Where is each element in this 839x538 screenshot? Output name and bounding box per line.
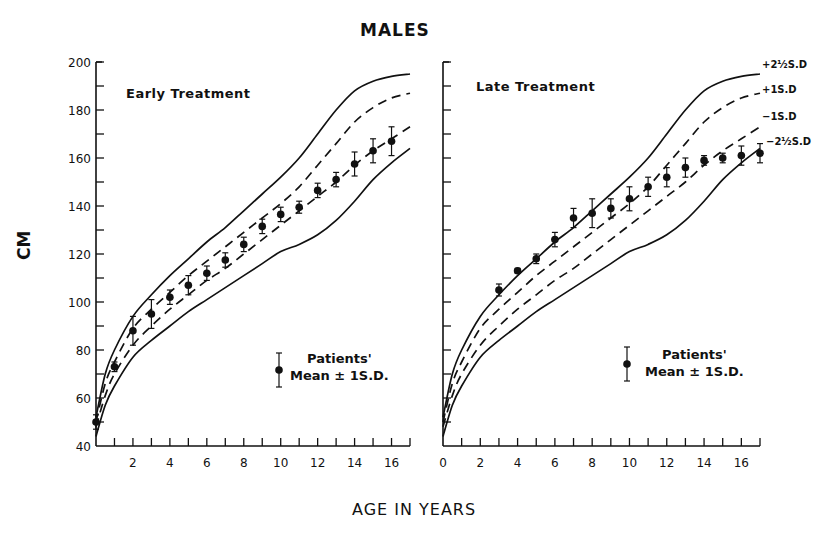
x-tick-label: 6 (203, 456, 211, 470)
reference-curve (443, 127, 760, 427)
reference-curve (96, 74, 410, 417)
panel-early: 406080100120140160180200246810121416 (68, 56, 410, 470)
y-tick-label: 200 (68, 56, 91, 70)
legend-symbol-icon (275, 353, 283, 387)
y-tick-label: 120 (68, 248, 91, 262)
data-point (644, 177, 652, 196)
data-point (258, 219, 266, 233)
reference-curve (443, 74, 760, 417)
data-point (738, 146, 746, 165)
x-tick-label: 8 (588, 456, 596, 470)
data-point (514, 267, 522, 275)
x-tick-label: 8 (240, 456, 248, 470)
x-tick-label: 14 (696, 456, 711, 470)
data-point (351, 152, 359, 176)
legend-symbol-icon (623, 347, 631, 381)
y-tick-label: 40 (76, 440, 91, 454)
data-point (495, 284, 503, 296)
y-tick-label: 60 (76, 392, 91, 406)
data-point (388, 127, 396, 156)
x-tick-label: 2 (476, 456, 484, 470)
x-tick-label: 4 (514, 456, 522, 470)
data-point (240, 237, 248, 251)
data-point (719, 153, 727, 163)
reference-curve (443, 93, 760, 422)
data-point (756, 144, 764, 163)
reference-curve (96, 127, 410, 427)
data-point (203, 266, 211, 280)
x-tick-label: 10 (273, 456, 288, 470)
data-point (221, 253, 229, 267)
data-point (277, 207, 285, 221)
data-point (682, 158, 690, 177)
data-point (369, 139, 377, 163)
panel-late: 0246810121416 (439, 62, 764, 470)
data-point (295, 201, 303, 213)
x-tick-label: 2 (129, 456, 137, 470)
x-tick-label: 6 (551, 456, 559, 470)
data-point (588, 199, 596, 228)
reference-curve (96, 148, 410, 436)
x-tick-label: 14 (347, 456, 362, 470)
reference-curve (96, 93, 410, 422)
x-tick-label: 0 (439, 456, 447, 470)
x-tick-label: 12 (310, 456, 325, 470)
x-tick-label: 16 (734, 456, 749, 470)
x-tick-label: 4 (166, 456, 174, 470)
x-tick-label: 10 (622, 456, 637, 470)
y-tick-label: 180 (68, 104, 91, 118)
growth-chart-figure: MALES CM AGE IN YEARS Early Treatment La… (0, 0, 839, 538)
y-tick-label: 100 (68, 296, 91, 310)
y-tick-label: 80 (76, 344, 91, 358)
plot-area: 4060801001201401601802002468101214160246… (0, 0, 839, 538)
y-tick-label: 160 (68, 152, 91, 166)
data-point (314, 183, 322, 197)
data-point (166, 290, 174, 304)
data-point (626, 187, 634, 211)
x-tick-label: 16 (384, 456, 399, 470)
data-point (663, 168, 671, 187)
y-tick-label: 140 (68, 200, 91, 214)
reference-curve (443, 148, 760, 436)
x-tick-label: 12 (659, 456, 674, 470)
